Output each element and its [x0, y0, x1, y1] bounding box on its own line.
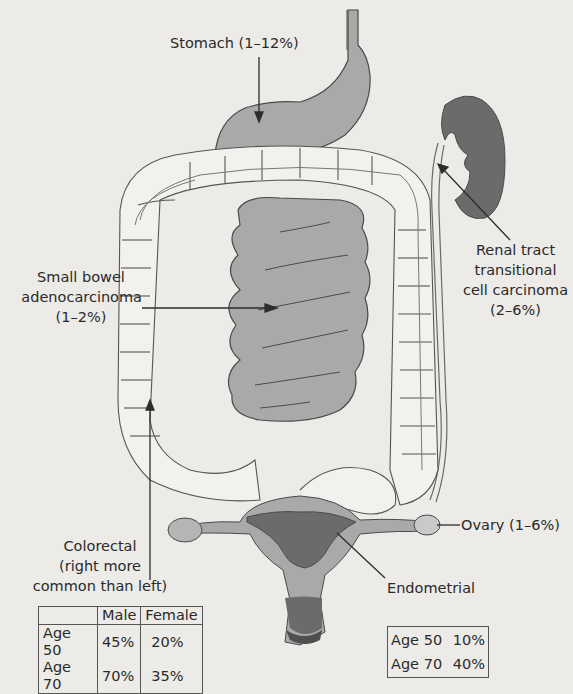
colorectal-risk-table: Male Female Age 50 45% 20% Age 70 70% 35… — [38, 606, 203, 694]
row-label: Age 50 — [39, 625, 98, 660]
left-ovary — [168, 518, 202, 542]
table-row: Age 50 45% 20% — [39, 625, 203, 660]
row-label: Age 70 — [391, 656, 442, 672]
uterus-organ — [168, 496, 440, 645]
endometrial-row: Age 50 10% — [391, 628, 485, 652]
renal-label-line4: (2–6%) — [458, 300, 573, 320]
male-value: 45% — [98, 625, 141, 660]
row-label: Age 50 — [391, 632, 442, 648]
table-header-female: Female — [141, 607, 202, 625]
renal-label-line1: Renal tract — [458, 240, 573, 260]
table-header-row: Male Female — [39, 607, 203, 625]
small-bowel-label-line1: Small bowel — [20, 267, 142, 287]
endometrial-label: Endometrial — [387, 578, 475, 598]
row-label: Age 70 — [39, 659, 98, 694]
stomach-label: Stomach (1–12%) — [170, 33, 299, 53]
colorectal-label-line3: common than left) — [30, 576, 170, 596]
male-value: 70% — [98, 659, 141, 694]
small-bowel-organ — [228, 198, 370, 422]
small-bowel-label-line2: adenocarcinoma — [20, 287, 142, 307]
female-value: 35% — [141, 659, 202, 694]
renal-label-line3: cell carcinoma — [458, 280, 573, 300]
colorectal-label-line2: (right more — [30, 556, 170, 576]
female-value: 20% — [141, 625, 202, 660]
row-value: 40% — [453, 656, 485, 672]
endometrial-row: Age 70 40% — [391, 652, 485, 676]
right-ovary — [414, 515, 440, 535]
table-header-male: Male — [98, 607, 141, 625]
ovary-label: Ovary (1–6%) — [461, 515, 560, 535]
endometrial-risk-box: Age 50 10% Age 70 40% — [387, 626, 489, 678]
renal-label-line2: transitional — [458, 260, 573, 280]
renal-label: Renal tract transitional cell carcinoma … — [458, 240, 573, 320]
row-value: 10% — [453, 632, 485, 648]
small-bowel-label: Small bowel adenocarcinoma (1–2%) — [20, 267, 142, 327]
colorectal-label: Colorectal (right more common than left) — [30, 536, 170, 596]
table-row: Age 70 70% 35% — [39, 659, 203, 694]
small-bowel-label-line3: (1–2%) — [20, 307, 142, 327]
colorectal-label-line1: Colorectal — [30, 536, 170, 556]
table-header-blank — [39, 607, 98, 625]
